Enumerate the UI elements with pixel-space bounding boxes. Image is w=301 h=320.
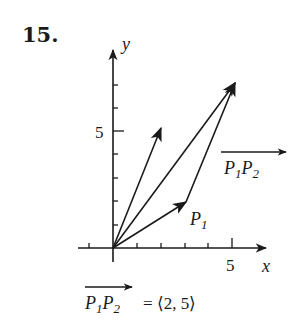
y-ticks	[113, 85, 124, 225]
svg-text:P1P2: P1P2	[223, 158, 260, 181]
y-axis-label: y	[120, 34, 130, 54]
vector-figure: 15. y x 5 5 P1 P1P2	[0, 0, 301, 320]
problem-number: 15.	[22, 22, 59, 47]
svg-text:P1: P1	[189, 209, 208, 232]
vector-p1p2	[186, 83, 235, 202]
vector-equation: P1P2 = ⟨2, 5⟩	[84, 287, 196, 316]
y-tick-label-5: 5	[95, 123, 104, 142]
vector-p1p2-standard	[113, 128, 161, 248]
axes	[78, 50, 266, 262]
point-p1-label: P1	[189, 209, 208, 232]
equation-rhs: = ⟨2, 5⟩	[143, 294, 196, 313]
vector-op1	[113, 202, 186, 248]
vectors	[113, 83, 235, 248]
svg-text:P1P2: P1P2	[84, 293, 121, 316]
x-ticks	[89, 238, 232, 248]
vector-op2	[113, 83, 235, 248]
x-tick-label-5: 5	[226, 256, 235, 275]
vector-label-right: P1P2	[221, 152, 286, 181]
x-axis-label: x	[261, 256, 270, 276]
